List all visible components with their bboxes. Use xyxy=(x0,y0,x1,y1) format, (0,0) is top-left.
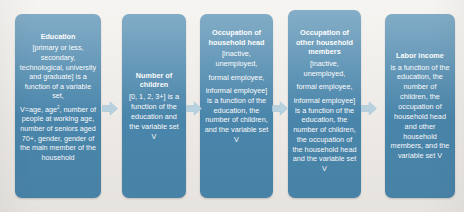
flow-node-number-of-children-paragraph-1: [0, 1, 2, 3+] is a function of the educa… xyxy=(126,92,182,141)
flow-node-number-of-children[interactable]: Number of children [0, 1, 2, 3+] is a fu… xyxy=(122,14,186,198)
flow-node-number-of-children-title: Number of children xyxy=(126,71,182,91)
flow-node-occupation-household-head[interactable]: Occupation of household head [inactive, … xyxy=(200,14,273,198)
flow-node-education-paragraph-2: V=age, age2, number of people at working… xyxy=(19,105,97,162)
flow-node-number-of-children-text: Number of children [0, 1, 2, 3+] is a fu… xyxy=(126,71,182,142)
flow-node-occupation-household-head-paragraph-2: formal employee, xyxy=(204,73,269,83)
flow-node-occupation-other-members[interactable]: Occupation of other household members [i… xyxy=(288,10,361,198)
flow-node-occupation-household-head-text: Occupation of household head [inactive, … xyxy=(204,28,269,145)
flow-node-occupation-other-members-paragraph-3: informal employee] is a function of the … xyxy=(292,96,357,174)
flowchart-canvas: Education [primary or less, secondary, t… xyxy=(0,0,464,212)
flow-node-occupation-other-members-text: Occupation of other household members [i… xyxy=(292,28,357,174)
right-arrow-icon xyxy=(361,101,377,116)
flow-node-education-paragraph-1: [primary or less, secondary, technologic… xyxy=(19,43,97,100)
flow-node-occupation-household-head-paragraph-1: [inactive, unemployed, xyxy=(204,49,269,68)
flow-node-labor-income-paragraph-1: is a function of the education, the numb… xyxy=(389,63,451,161)
flow-node-labor-income-text: Labor income is a function of the educat… xyxy=(389,51,451,161)
right-arrow-icon xyxy=(272,101,288,116)
flow-node-occupation-other-members-title: Occupation of other household members xyxy=(292,28,357,57)
flow-node-education-text: Education [primary or less, secondary, t… xyxy=(19,32,97,162)
flow-node-labor-income-title: Labor income xyxy=(389,51,451,61)
flow-node-occupation-household-head-paragraph-3: informal employee] is a function of the … xyxy=(204,86,269,144)
flow-node-occupation-household-head-title: Occupation of household head xyxy=(204,28,269,47)
flow-node-labor-income[interactable]: Labor income is a function of the educat… xyxy=(385,14,455,198)
right-arrow-icon xyxy=(102,101,118,116)
flow-node-education[interactable]: Education [primary or less, secondary, t… xyxy=(15,14,101,198)
flow-node-occupation-other-members-paragraph-1: [inactive, unemployed, xyxy=(292,59,357,78)
flow-node-occupation-other-members-paragraph-2: formal employee, xyxy=(292,82,357,92)
flow-node-education-title: Education xyxy=(19,32,97,42)
right-arrow-icon xyxy=(186,101,202,116)
